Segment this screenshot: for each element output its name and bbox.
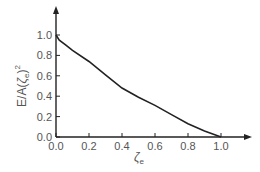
x-axis-arrow-icon <box>244 134 252 140</box>
x-axis-label: ζe <box>134 150 145 166</box>
x-tick-label: 1.0 <box>213 140 228 152</box>
y-tick-label: 0.4 <box>37 90 52 102</box>
x-tick-label: 0.8 <box>180 140 195 152</box>
axes <box>53 6 252 140</box>
x-tick-label: 0.6 <box>147 140 162 152</box>
y-tick-label: 0.8 <box>37 49 52 61</box>
y-axis-label: E/A(ζe)2 <box>13 65 31 107</box>
y-tick-label: 1.0 <box>37 29 52 41</box>
y-tick-label: 0.6 <box>37 70 52 82</box>
svg-text:E/A(ζe)2: E/A(ζe)2 <box>13 65 31 107</box>
svg-text:ζe: ζe <box>134 150 145 166</box>
x-tick-label: 0.2 <box>81 140 96 152</box>
data-curve <box>56 35 221 137</box>
y-tick-label: 0.2 <box>37 111 52 123</box>
x-tick-label: 0.4 <box>114 140 129 152</box>
chart-canvas: 0.00.20.40.60.81.00.00.20.40.60.81.0 E/A… <box>0 0 260 172</box>
y-axis-arrow-icon <box>53 6 59 14</box>
ticks: 0.00.20.40.60.81.00.00.20.40.60.81.0 <box>37 29 229 152</box>
y-tick-label: 0.0 <box>37 131 52 143</box>
